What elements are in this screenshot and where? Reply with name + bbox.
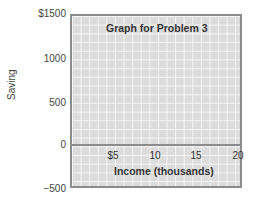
chart-title: Graph for Problem 3 bbox=[106, 22, 208, 34]
zero-axis-line bbox=[70, 144, 242, 146]
x-tick-5: $5 bbox=[107, 150, 118, 161]
y-axis-label: Saving bbox=[6, 69, 17, 100]
plot-area bbox=[70, 14, 242, 188]
y-tick-neg500: −500 bbox=[43, 183, 66, 194]
y-tick-0: 0 bbox=[60, 139, 66, 150]
y-tick-500: 500 bbox=[49, 97, 66, 108]
y-tick-1000: 1000 bbox=[44, 53, 66, 64]
y-tick-1500: $1500 bbox=[38, 8, 66, 19]
x-tick-20: 20 bbox=[232, 150, 243, 161]
x-axis-label: Income (thousands) bbox=[114, 165, 214, 177]
x-tick-10: 10 bbox=[149, 150, 160, 161]
x-tick-15: 15 bbox=[190, 150, 201, 161]
